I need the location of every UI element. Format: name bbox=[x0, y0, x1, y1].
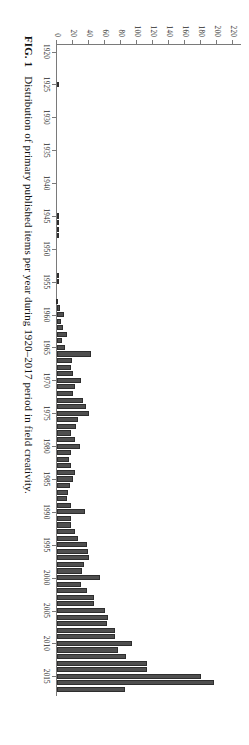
bar bbox=[57, 621, 107, 626]
bar bbox=[57, 279, 59, 284]
bar bbox=[57, 220, 59, 225]
value-tick-label: 120 bbox=[149, 0, 157, 37]
category-tick-label: 1940 bbox=[42, 175, 50, 190]
bar bbox=[57, 273, 59, 278]
bar bbox=[57, 476, 73, 481]
chart-plot-area: 020406080100120140160180200220 192019251… bbox=[45, 0, 241, 700]
category-tick-label: 1955 bbox=[42, 274, 50, 289]
bar bbox=[57, 391, 73, 396]
category-tick-label: 1950 bbox=[42, 241, 50, 256]
bar bbox=[57, 332, 67, 337]
value-tick-label: 220 bbox=[229, 0, 237, 37]
bar bbox=[57, 325, 63, 330]
bar bbox=[57, 490, 68, 495]
bar bbox=[57, 641, 132, 646]
category-tick-label: 2015 bbox=[42, 669, 50, 684]
bar bbox=[57, 437, 75, 442]
bar bbox=[57, 463, 71, 468]
bar bbox=[57, 358, 72, 363]
category-tick-label: 1975 bbox=[42, 406, 50, 421]
category-tick-label: 1980 bbox=[42, 439, 50, 454]
bar bbox=[57, 661, 147, 666]
bar bbox=[57, 319, 61, 324]
bar bbox=[57, 371, 73, 376]
bar bbox=[57, 233, 59, 238]
bar bbox=[57, 582, 81, 587]
category-tick-label: 1970 bbox=[42, 373, 50, 388]
bar bbox=[57, 667, 147, 672]
value-tick-label: 80 bbox=[117, 0, 125, 37]
category-tick-label: 1930 bbox=[42, 110, 50, 125]
bar bbox=[57, 365, 71, 370]
figure-number: FIG. 1 bbox=[23, 36, 35, 67]
bar bbox=[57, 503, 71, 508]
value-tick-label: 40 bbox=[85, 0, 93, 37]
figure-caption: FIG. 1Distribution of primary published … bbox=[23, 36, 35, 726]
bar bbox=[57, 542, 87, 547]
category-tick-label: 1935 bbox=[42, 143, 50, 158]
bar bbox=[56, 299, 58, 304]
bar bbox=[57, 457, 69, 462]
bar bbox=[57, 213, 59, 218]
bar bbox=[57, 628, 115, 633]
bar bbox=[57, 424, 76, 429]
bar-series bbox=[57, 45, 241, 696]
bar bbox=[57, 82, 59, 87]
bar bbox=[57, 562, 84, 567]
bar bbox=[57, 384, 75, 389]
figure-caption-text: Distribution of primary published items … bbox=[23, 76, 35, 494]
value-tick-label: 100 bbox=[133, 0, 141, 37]
category-tick-label: 2010 bbox=[42, 636, 50, 651]
bar bbox=[57, 509, 85, 514]
bar bbox=[57, 654, 126, 659]
bar bbox=[57, 568, 82, 573]
bar bbox=[57, 522, 71, 527]
value-tick-label: 0 bbox=[53, 0, 61, 37]
category-tick-label: 1985 bbox=[42, 471, 50, 486]
value-tick-label: 160 bbox=[181, 0, 189, 37]
category-tick-label: 1945 bbox=[42, 208, 50, 223]
bar bbox=[57, 615, 108, 620]
figure-root: 020406080100120140160180200220 192019251… bbox=[0, 0, 249, 745]
bar bbox=[57, 338, 62, 343]
bar bbox=[57, 536, 78, 541]
bar bbox=[57, 496, 67, 501]
bar bbox=[57, 608, 105, 613]
bar bbox=[57, 483, 70, 488]
bar bbox=[57, 227, 59, 232]
bar bbox=[57, 529, 75, 534]
bar bbox=[57, 470, 75, 475]
bar bbox=[57, 430, 71, 435]
bar bbox=[57, 378, 81, 383]
bar bbox=[57, 588, 87, 593]
bar bbox=[57, 398, 83, 403]
bar bbox=[57, 595, 94, 600]
category-tick-label: 1965 bbox=[42, 340, 50, 355]
category-tick-label: 1925 bbox=[42, 77, 50, 92]
category-tick-label: 1960 bbox=[42, 307, 50, 322]
bar bbox=[57, 404, 86, 409]
bar bbox=[57, 674, 201, 679]
bar bbox=[57, 305, 60, 310]
value-tick-label: 180 bbox=[197, 0, 205, 37]
value-tick-label: 60 bbox=[101, 0, 109, 37]
bar bbox=[57, 601, 94, 606]
bar bbox=[57, 687, 125, 692]
bar bbox=[57, 555, 89, 560]
category-tick-label: 2000 bbox=[42, 570, 50, 585]
bar bbox=[57, 450, 71, 455]
category-tick-label: 1920 bbox=[42, 44, 50, 59]
bar bbox=[57, 351, 91, 356]
bar bbox=[57, 312, 64, 317]
bar bbox=[57, 345, 65, 350]
value-tick-label: 200 bbox=[213, 0, 221, 37]
bar bbox=[57, 516, 71, 521]
bar bbox=[57, 417, 78, 422]
bar bbox=[57, 444, 80, 449]
bar bbox=[57, 680, 214, 685]
bar bbox=[57, 647, 118, 652]
category-tick-label: 1995 bbox=[42, 537, 50, 552]
value-tick-label: 20 bbox=[69, 0, 77, 37]
bar bbox=[57, 549, 88, 554]
bar bbox=[57, 575, 100, 580]
